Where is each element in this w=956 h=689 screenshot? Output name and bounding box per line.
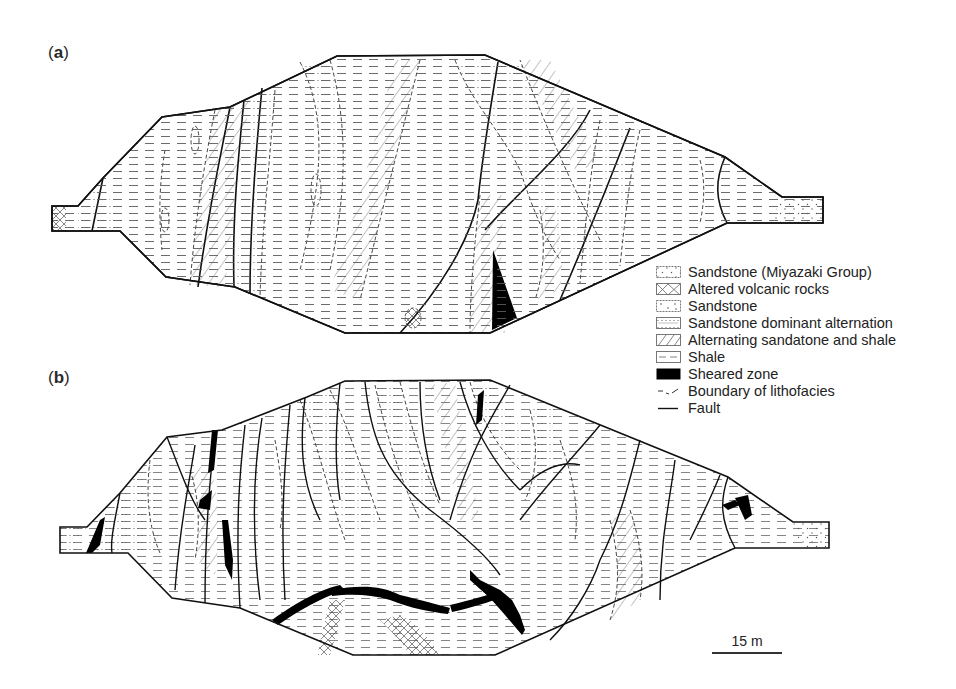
legend-label: Sandstone (Miyazaki Group) (688, 264, 872, 281)
panel-label-b: (b) (48, 368, 70, 388)
dotted-line-swatch-icon (656, 317, 682, 330)
legend-label: Sandstone dominant alternation (688, 315, 893, 332)
legend-item-sheared-zone: Sheared zone (656, 366, 896, 383)
label-letter: b (54, 368, 64, 387)
dash-swatch-icon (656, 351, 682, 364)
scale-line (712, 652, 782, 654)
legend-label: Sheared zone (688, 366, 778, 383)
legend-item-fault: Fault (656, 400, 896, 417)
dot-swatch-icon (656, 300, 682, 313)
legend-label: Fault (688, 400, 720, 417)
sparse-dot-swatch-icon (656, 266, 682, 279)
label-paren-close: ) (64, 368, 70, 387)
solid-black-swatch-icon (656, 368, 682, 381)
legend-label: Sandstone (688, 298, 757, 315)
legend-item-altered-volcanic: Altered volcanic rocks (656, 281, 896, 298)
scale-bar: 15 m (712, 633, 782, 654)
cross-hatch-swatch-icon (656, 283, 682, 296)
diagonal-hatch-swatch-icon (656, 334, 682, 347)
legend-item-sandstone: Sandstone (656, 298, 896, 315)
legend-label: Boundary of lithofacies (688, 383, 835, 400)
legend-label: Alternating sandatone and shale (688, 332, 896, 349)
label-paren-close: ) (63, 43, 69, 62)
legend-item-sandstone-dominant: Sandstone dominant alternation (656, 315, 896, 332)
legend-item-sandstone-miyazaki: Sandstone (Miyazaki Group) (656, 264, 896, 281)
legend-label: Shale (688, 349, 725, 366)
dashed-line-icon (656, 385, 682, 398)
solid-line-icon (656, 402, 682, 415)
legend-item-boundary: Boundary of lithofacies (656, 383, 896, 400)
legend: Sandstone (Miyazaki Group) Altered volca… (656, 264, 896, 417)
panel-b-section (60, 380, 829, 655)
label-letter: a (54, 43, 63, 62)
legend-item-shale: Shale (656, 349, 896, 366)
legend-item-alternating: Alternating sandatone and shale (656, 332, 896, 349)
legend-label: Altered volcanic rocks (688, 281, 829, 298)
scale-label: 15 m (712, 633, 782, 649)
panel-label-a: (a) (48, 43, 69, 63)
